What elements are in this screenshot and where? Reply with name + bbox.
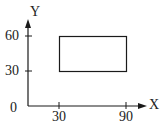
origin-label: 0 [10, 101, 17, 115]
rectangle-region [60, 37, 127, 72]
y-axis-label: Y [30, 5, 40, 19]
x-axis-label: X [149, 98, 159, 112]
x-axis-arrow-icon [138, 103, 147, 109]
y-axis-arrow-icon [25, 19, 31, 28]
y-tick-label-60: 60 [5, 29, 19, 43]
x-tick-label-30: 30 [52, 110, 66, 124]
x-tick-label-90: 90 [119, 110, 133, 124]
coordinate-diagram [0, 0, 164, 128]
y-tick-label-30: 30 [5, 64, 19, 78]
